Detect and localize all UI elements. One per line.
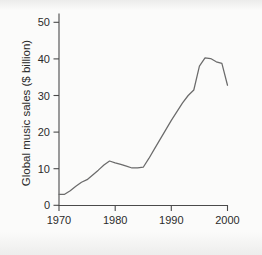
line-chart: Global music sales ($ billion) 50 40 30 …: [0, 0, 262, 255]
chart-figure: Global music sales ($ billion) 50 40 30 …: [0, 0, 262, 255]
x-axis-ticks: [59, 206, 228, 212]
x-tick-label-1970: 1970: [47, 214, 71, 226]
x-tick-label-1990: 1990: [159, 214, 183, 226]
x-tick-label-1980: 1980: [103, 214, 127, 226]
y-tick-label-10: 10: [38, 163, 50, 175]
y-axis-ticks: [54, 22, 60, 205]
x-tick-label-2000: 2000: [215, 214, 239, 226]
y-tick-label-50: 50: [38, 16, 50, 28]
y-tick-label-20: 20: [38, 126, 50, 138]
y-axis-tick-labels: 50 40 30 20 10 0: [38, 16, 50, 211]
y-tick-label-30: 30: [38, 90, 50, 102]
y-tick-label-40: 40: [38, 53, 50, 65]
data-series-line: [59, 58, 228, 195]
x-axis-tick-labels: 1970 1980 1990 2000: [47, 214, 240, 226]
y-tick-label-0: 0: [44, 199, 50, 211]
y-axis-title: Global music sales ($ billion): [20, 40, 32, 187]
